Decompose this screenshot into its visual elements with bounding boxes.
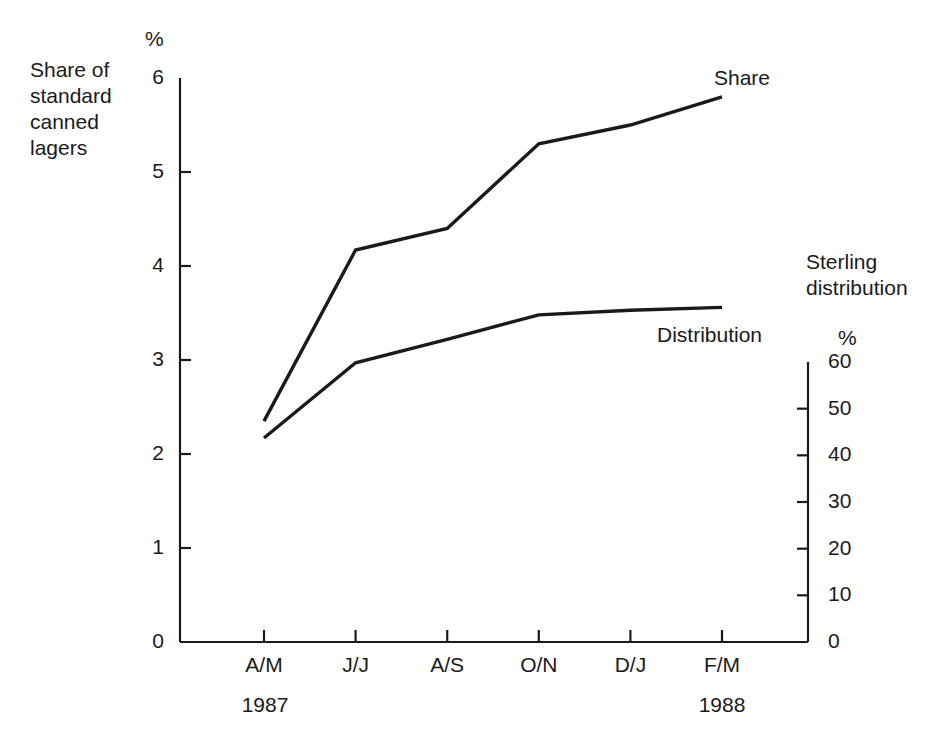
x-axis-ticks bbox=[264, 630, 722, 642]
x-tick-label: A/S bbox=[402, 652, 492, 678]
left-tick-label: 5 bbox=[96, 158, 164, 184]
left-tick-label: 4 bbox=[96, 252, 164, 278]
x-tick-label: J/J bbox=[311, 652, 401, 678]
right-tick-label: 50 bbox=[828, 395, 851, 421]
right-tick-label: 60 bbox=[828, 348, 851, 374]
left-tick-label: 6 bbox=[96, 64, 164, 90]
x-tick-label: F/M bbox=[677, 652, 767, 678]
left-tick-label: 2 bbox=[96, 440, 164, 466]
left-axis-unit: % bbox=[145, 26, 164, 52]
x-tick-label: D/J bbox=[585, 652, 675, 678]
right-tick-label: 30 bbox=[828, 488, 851, 514]
right-tick-label: 0 bbox=[828, 628, 840, 654]
x-tick-label: O/N bbox=[494, 652, 584, 678]
right-tick-label: 20 bbox=[828, 535, 851, 561]
period-label-1988: 1988 bbox=[682, 692, 762, 718]
right-tick-label: 40 bbox=[828, 441, 851, 467]
right-axis-ticks bbox=[797, 409, 808, 596]
series-line-share bbox=[264, 97, 722, 421]
left-tick-label: 1 bbox=[96, 534, 164, 560]
left-tick-label: 3 bbox=[96, 346, 164, 372]
left-axis-ticks bbox=[180, 172, 191, 548]
period-label-1987: 1987 bbox=[225, 692, 305, 718]
series-label-distribution: Distribution bbox=[657, 322, 762, 348]
chart-figure: Share of standard canned lagers Sterling… bbox=[0, 0, 947, 737]
series-line-distribution bbox=[264, 307, 722, 438]
x-tick-label: A/M bbox=[219, 652, 309, 678]
left-tick-label: 0 bbox=[96, 628, 164, 654]
right-tick-label: 10 bbox=[828, 581, 851, 607]
series-label-share: Share bbox=[714, 65, 770, 91]
right-axis-title: Sterling distribution bbox=[806, 249, 908, 301]
